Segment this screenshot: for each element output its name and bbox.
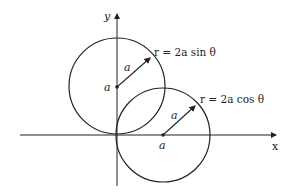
upper-circle-equation: r = 2a sin θ: [154, 46, 216, 58]
right-radius-arrow: [163, 106, 195, 135]
y-axis-label: y: [103, 10, 111, 23]
upper-radius-label: a: [124, 61, 131, 74]
polar-circles-diagram: x y a a r = 2a sin θ a a r = 2a cos θ: [0, 0, 293, 196]
x-axis-label: x: [272, 140, 279, 153]
right-circle-equation: r = 2a cos θ: [200, 93, 264, 105]
right-center-label: a: [159, 139, 166, 152]
right-radius-label: a: [171, 109, 178, 122]
upper-center-label: a: [104, 81, 111, 94]
upper-radius-arrow: [117, 58, 150, 87]
